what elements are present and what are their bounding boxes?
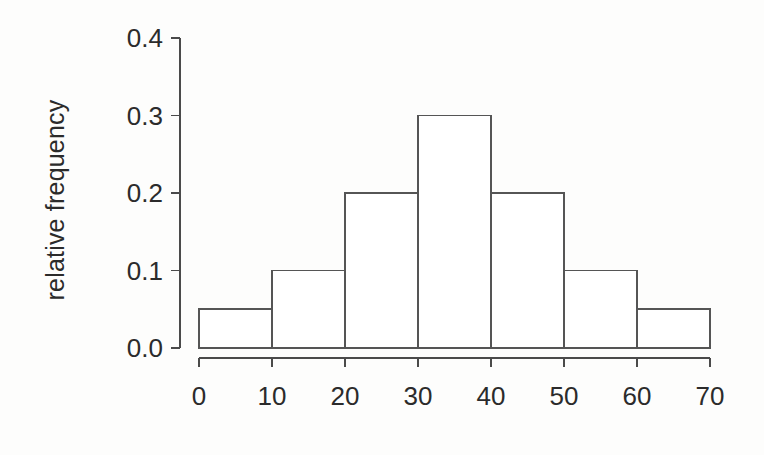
histogram-plot-area bbox=[0, 0, 764, 455]
histogram-bar bbox=[345, 193, 418, 348]
histogram-bar bbox=[564, 271, 637, 349]
y-axis bbox=[171, 38, 180, 348]
histogram-bars bbox=[199, 116, 710, 349]
histogram-bar bbox=[491, 193, 564, 348]
histogram-bar bbox=[199, 309, 272, 348]
histogram-bar bbox=[418, 116, 491, 349]
histogram-bar bbox=[637, 309, 710, 348]
histogram-figure: relative frequency 0.00.10.20.30.4 01020… bbox=[0, 0, 764, 455]
x-axis bbox=[199, 358, 710, 367]
histogram-bar bbox=[272, 271, 345, 349]
